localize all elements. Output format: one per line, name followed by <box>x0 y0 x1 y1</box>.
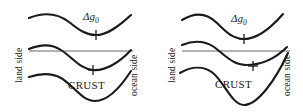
gravity-anomaly-tick-icon <box>91 30 101 40</box>
crust-label: CRUST <box>68 79 105 91</box>
gravity-anomaly-curve <box>29 14 131 35</box>
topography-bathymetry-curve <box>182 42 287 65</box>
topography-bathymetry-curve <box>29 45 131 70</box>
left-axis-label-land-side: land side <box>167 48 177 83</box>
crust-label: CRUST <box>215 78 252 90</box>
gravity-anomaly-label: Δg0 <box>82 10 99 25</box>
panel-right: land side ocean side Δg0 <box>152 0 303 112</box>
anomaly-subscript: 0 <box>243 18 247 27</box>
anomaly-delta-symbol: Δ <box>82 10 89 22</box>
right-axis-label-ocean-side: ocean side <box>129 55 139 96</box>
panel-left: land side ocean side Δg0 <box>0 0 151 112</box>
anomaly-subscript: 0 <box>95 16 99 25</box>
left-axis-label-land-side: land side <box>14 48 24 83</box>
gravity-anomaly-label: Δg0 <box>230 12 247 27</box>
topography-tick-icon <box>248 61 258 71</box>
topography-tick-icon <box>88 65 98 75</box>
figure-root: land side ocean side Δg0 <box>0 0 303 112</box>
gravity-anomaly-tick-icon <box>239 34 249 44</box>
anomaly-delta-symbol: Δ <box>230 12 237 24</box>
